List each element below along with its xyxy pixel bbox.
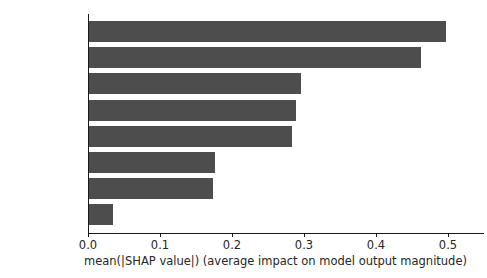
bar-fill [88, 178, 213, 199]
x-tick-label-0.0: 0.0 [58, 238, 118, 252]
bar-disabilities[interactable] [88, 204, 113, 225]
x-tick-label-0.1: 0.1 [130, 238, 190, 252]
bar-fill [88, 126, 292, 147]
bar-fill [88, 73, 301, 94]
x-axis-spine [88, 233, 484, 234]
x-tick-mark-0.1 [160, 233, 161, 237]
bar-degree[interactable] [88, 100, 296, 121]
x-tick-mark-0.5 [448, 233, 449, 237]
bar-fill [88, 47, 421, 68]
bar-race[interactable] [88, 47, 421, 68]
x-tick-label-0.3: 0.3 [274, 238, 334, 252]
plot-area [88, 14, 484, 233]
bar-gender[interactable] [88, 178, 213, 199]
x-tick-mark-0.4 [376, 233, 377, 237]
bar-fill [88, 204, 113, 225]
bar-fill [88, 21, 446, 42]
x-tick-label-0.2: 0.2 [202, 238, 262, 252]
bar-fill [88, 100, 296, 121]
y-axis-spine [88, 14, 89, 233]
x-tick-label-0.4: 0.4 [346, 238, 406, 252]
bar-migration[interactable] [88, 21, 446, 42]
x-axis-label: mean(|SHAP value|) (average impact on mo… [0, 254, 487, 268]
bar-religions[interactable] [88, 152, 215, 173]
shap-feature-importance-chart: mean(|SHAP value|) (average impact on mo… [0, 0, 487, 278]
x-tick-mark-0.3 [304, 233, 305, 237]
x-tick-mark-0.2 [232, 233, 233, 237]
bar-age[interactable] [88, 73, 301, 94]
bar-fill [88, 152, 215, 173]
x-tick-label-0.5: 0.5 [418, 238, 478, 252]
x-tick-mark-0.0 [88, 233, 89, 237]
bar-medical[interactable] [88, 126, 292, 147]
